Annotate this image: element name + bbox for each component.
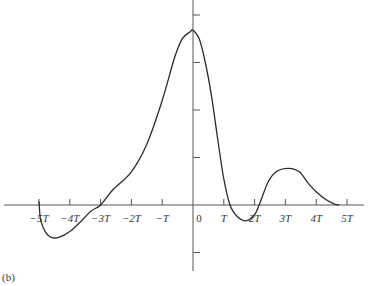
x-tick-label: −4T: [60, 212, 80, 224]
x-tick-label: −2T: [122, 212, 142, 224]
figure-caption: (b): [2, 271, 15, 284]
x-tick-label: 3T: [279, 212, 293, 224]
x-tick-label: T: [221, 212, 228, 224]
x-tick-label: 0: [196, 212, 202, 224]
chart: −5T−4T−3T−2T−T0T2T3T4T5T (b): [0, 0, 368, 286]
series-line: [39, 30, 339, 238]
x-tick-label: −T: [155, 212, 169, 224]
x-tick-label: −3T: [91, 212, 111, 224]
x-tick-label: 4T: [310, 212, 323, 224]
x-tick-label: 5T: [341, 212, 354, 224]
x-tick-labels: −5T−4T−3T−2T−T0T2T3T4T5T: [29, 212, 353, 224]
